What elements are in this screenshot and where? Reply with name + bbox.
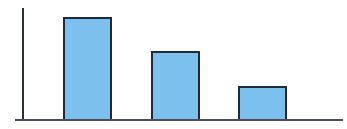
bar-3 (238, 86, 287, 120)
bar-2 (151, 51, 200, 120)
bar-1 (63, 17, 112, 120)
y-axis (22, 8, 24, 121)
x-axis (15, 119, 343, 121)
bar-chart (0, 0, 347, 129)
